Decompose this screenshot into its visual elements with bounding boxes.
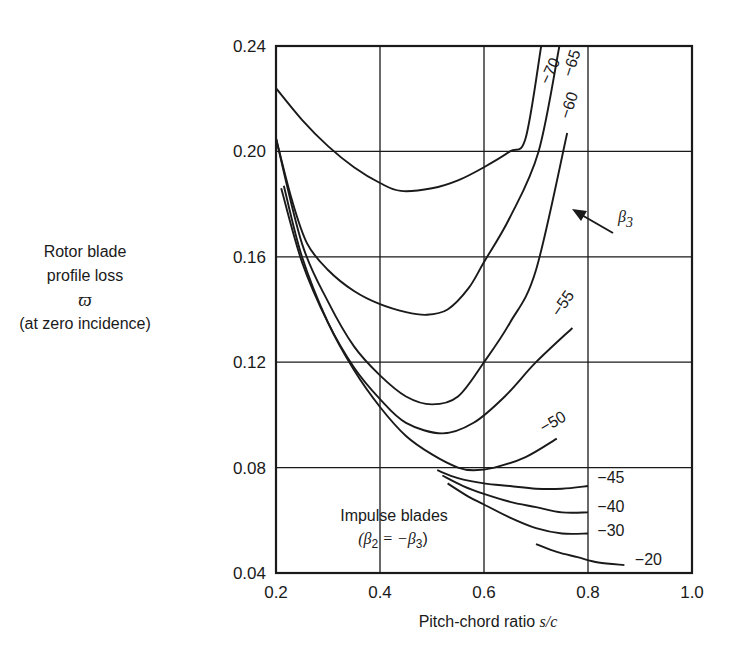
x-axis-label: Pitch-chord ratio s/c <box>419 613 558 630</box>
curve-beta3-minus65 <box>276 46 559 315</box>
curve-label: −20 <box>635 551 662 568</box>
y-tick: 0.16 <box>233 248 266 267</box>
beta3-curves <box>276 46 624 565</box>
curve-beta3-minus55 <box>281 188 572 433</box>
curve-label: −55 <box>548 287 578 319</box>
x-tick: 0.8 <box>576 583 600 602</box>
y-tick: 0.12 <box>233 353 266 372</box>
curve-beta3-minus70 <box>276 46 541 191</box>
beta3-label: β3 <box>617 208 633 230</box>
beta3-annotation: β3 <box>572 208 633 233</box>
curve-beta3-minus30 <box>448 483 588 533</box>
y-axis-label: Rotor blade profile loss ϖ (at zero inci… <box>0 240 170 336</box>
x-tick: 0.2 <box>264 583 288 602</box>
y-label-line-1: Rotor blade <box>0 240 170 264</box>
arrowhead-icon <box>572 209 587 221</box>
y-tick: 0.08 <box>233 459 266 478</box>
curve-label: −30 <box>597 522 624 539</box>
arrow-icon <box>580 214 613 233</box>
curve-beta3-minus45 <box>437 470 588 489</box>
curve-labels: −70−65−60−55−50−45−40−30−20 <box>536 47 662 568</box>
y-tick: 0.04 <box>233 564 266 583</box>
x-tick: 1.0 <box>680 583 704 602</box>
impulse-blades-formula: (β2 = −β3) <box>358 530 428 551</box>
y-label-line-4: (at zero incidence) <box>0 312 170 336</box>
curve-beta3-minus50 <box>284 186 557 471</box>
x-tick: 0.6 <box>472 583 496 602</box>
curve-beta3-minus60 <box>276 133 567 404</box>
y-tick-labels: 0.240.200.160.120.080.04 <box>233 37 266 583</box>
curve-label: −40 <box>597 498 624 515</box>
y-tick: 0.24 <box>233 37 266 56</box>
impulse-blades-label: Impulse blades <box>340 507 448 524</box>
curve-label: −65 <box>559 47 584 78</box>
y-label-line-2: profile loss <box>0 264 170 288</box>
x-tick-labels: 0.20.40.60.81.0 <box>264 583 704 602</box>
y-label-symbol: ϖ <box>0 288 170 312</box>
curve-beta3-minus20 <box>536 544 624 565</box>
curve-label: −45 <box>597 469 624 486</box>
y-tick: 0.20 <box>233 142 266 161</box>
curve-label: −50 <box>537 408 569 436</box>
curve-label: −60 <box>556 90 581 121</box>
x-tick: 0.4 <box>368 583 392 602</box>
